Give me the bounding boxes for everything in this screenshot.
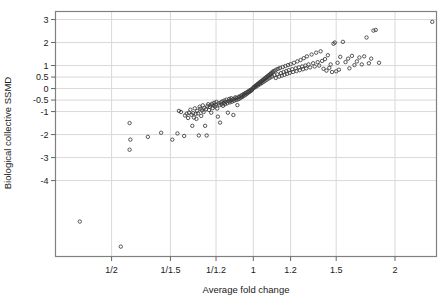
y-tick-label: -4: [40, 176, 48, 186]
x-tick-label: 1/1.5: [160, 265, 180, 275]
y-tick-label: 1: [43, 61, 48, 71]
x-tick-label: 1: [251, 265, 256, 275]
y-tick-label: 3: [43, 15, 48, 25]
y-tick-label: 2: [43, 38, 48, 48]
y-axis-title: Biological collective SSMD: [2, 77, 13, 190]
y-tick-label: 0: [43, 84, 48, 94]
x-axis-title: Average fold change: [203, 284, 290, 295]
y-tick-label: 0.5: [36, 72, 49, 82]
y-tick-label: -1: [40, 107, 48, 117]
x-tick-label: 1/1.2: [206, 265, 226, 275]
chart-background: [0, 0, 448, 306]
y-tick-label: -0.5: [33, 95, 49, 105]
x-tick-label: 1.2: [284, 265, 297, 275]
y-tick-label: -2: [40, 130, 48, 140]
x-tick-label: 1/2: [105, 265, 118, 275]
x-tick-label: 2: [393, 265, 398, 275]
x-tick-label: 1.5: [330, 265, 343, 275]
y-tick-label: -3: [40, 153, 48, 163]
scatter-chart: 3210.50-0.5-1-2-3-41/21/1.51/1.211.21.52…: [0, 0, 448, 306]
